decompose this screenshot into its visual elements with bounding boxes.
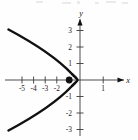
x-axis-arrow-icon <box>118 77 125 82</box>
x-tick-label--5: -5 <box>19 84 25 93</box>
y-tick-label--1: -1 <box>66 92 72 101</box>
y-tick-label-1: 1 <box>68 59 72 68</box>
y-axis-arrow-icon <box>77 19 82 26</box>
y-axis: y <box>77 9 83 136</box>
y-tick-label-3: 3 <box>68 26 72 35</box>
x-axis-label: x <box>125 76 130 85</box>
x-tick-label--4: -4 <box>31 84 37 93</box>
y-tick-label--3: -3 <box>66 125 72 134</box>
x-tick-labels: -5 -4 -3 -2 1 <box>19 84 105 93</box>
marked-point-dot <box>66 77 73 84</box>
x-tick-label-1: 1 <box>101 84 105 93</box>
x-tick-label--3: -3 <box>42 84 48 93</box>
x-tick-label--2: -2 <box>54 84 60 93</box>
y-tick-label-2: 2 <box>68 43 72 52</box>
y-axis-label: y <box>78 9 83 18</box>
parabola-figure: x -5 -4 -3 -2 1 y <box>0 0 138 140</box>
coordinate-plot: x -5 -4 -3 -2 1 y <box>0 0 138 140</box>
y-tick-label--2: -2 <box>66 109 72 118</box>
